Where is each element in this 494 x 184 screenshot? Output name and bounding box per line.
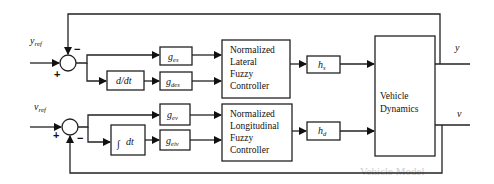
svg-text:vref: vref [34, 101, 47, 114]
svg-text:Longitudinal: Longitudinal [230, 121, 279, 131]
lateral-minus-sign: − [74, 43, 80, 55]
lateral-error-to-derivative [87, 63, 106, 81]
longitudinal-error-to-integral [88, 127, 110, 142]
fuzzy-control-block-diagram: Vehicle Model yref + − d/dt ges gdes Nor… [0, 0, 494, 184]
longitudinal-minus-sign: − [77, 132, 83, 144]
derivative-label: d/dt [116, 75, 132, 86]
svg-text:Vehicle: Vehicle [380, 91, 409, 101]
svg-text:Normalized: Normalized [230, 45, 275, 55]
svg-text:Controller: Controller [230, 145, 270, 155]
svg-text:Controller: Controller [230, 81, 270, 91]
svg-text:Normalized: Normalized [230, 109, 275, 119]
lateral-output-label: y [454, 42, 460, 53]
lateral-summing-junction [60, 55, 76, 71]
svg-text:Fuzzy: Fuzzy [230, 69, 253, 79]
integral-label: dt [126, 136, 134, 147]
svg-text:Dynamics: Dynamics [380, 104, 419, 114]
lateral-error-to-ges [76, 55, 159, 63]
longitudinal-reference-label: vref [34, 101, 47, 114]
longitudinal-summing-junction [62, 119, 78, 135]
longitudinal-output-label: v [457, 108, 462, 119]
svg-text:Fuzzy: Fuzzy [230, 133, 253, 143]
longitudinal-plus-sign: + [53, 129, 59, 141]
lateral-reference-label: yref [29, 35, 43, 48]
background-heading: Vehicle Model [360, 165, 424, 177]
lateral-plus-sign: + [54, 68, 60, 80]
svg-text:yref: yref [29, 35, 43, 48]
svg-text:Lateral: Lateral [230, 57, 257, 67]
background-text: Vehicle Model [360, 165, 424, 177]
